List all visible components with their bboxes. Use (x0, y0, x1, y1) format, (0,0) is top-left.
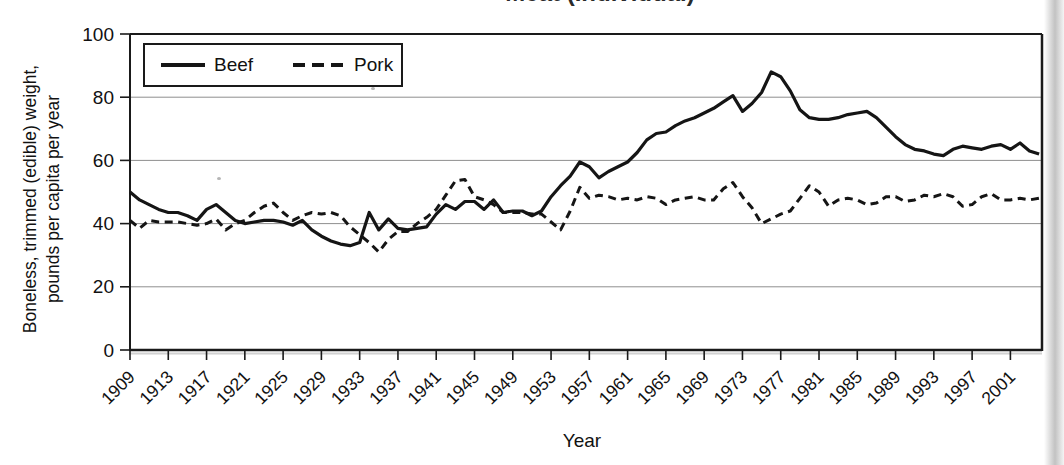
x-tick-label-1973: 1973 (710, 367, 752, 409)
x-tick-label-1909: 1909 (97, 367, 139, 409)
x-tick-label-1953: 1953 (518, 367, 560, 409)
x-tick-label-1949: 1949 (480, 367, 522, 409)
x-tick-label-1997: 1997 (939, 367, 981, 409)
x-tick-label-1913: 1913 (135, 367, 177, 409)
x-tick-label-1981: 1981 (786, 367, 828, 409)
x-tick-label-1917: 1917 (174, 367, 216, 409)
y-axis-title-line2: pounds per capita per year (43, 95, 63, 303)
y-tick-label-60: 60 (93, 150, 114, 171)
x-tick-label-1945: 1945 (442, 367, 484, 409)
x-tick-label-1961: 1961 (595, 367, 637, 409)
x-tick-label-1921: 1921 (212, 367, 254, 409)
x-tick-label-1969: 1969 (671, 367, 713, 409)
scan-speck (217, 177, 221, 180)
x-tick-label-1965: 1965 (633, 367, 675, 409)
x-tick-label-1937: 1937 (365, 367, 407, 409)
y-tick-label-0: 0 (103, 340, 114, 361)
x-tick-label-1985: 1985 (824, 367, 866, 409)
beef-line (130, 72, 1039, 246)
y-tick-label-80: 80 (93, 87, 114, 108)
beef-solid-line-sample-icon (161, 63, 205, 67)
legend-label-pork: Pork (354, 54, 393, 76)
scan-speck (371, 87, 375, 90)
x-tick-label-1993: 1993 (901, 367, 943, 409)
x-tick-label-1929: 1929 (289, 367, 331, 409)
y-tick-label-100: 100 (82, 24, 114, 45)
x-tick-label-1989: 1989 (863, 367, 905, 409)
y-axis-title-line1: Boneless, trimmed (edible) weight, (20, 65, 40, 333)
x-tick-label-1941: 1941 (403, 367, 445, 409)
x-axis-title: Year (500, 430, 664, 452)
legend-box: Beef Pork (143, 43, 403, 87)
legend-label-beef: Beef (214, 54, 253, 76)
y-tick-label-20: 20 (93, 276, 114, 297)
x-tick-label-1977: 1977 (748, 367, 790, 409)
legend-item-beef: Beef (161, 54, 253, 76)
y-axis-title: Boneless, trimmed (edible) weight, pound… (19, 29, 65, 369)
y-tick-label-40: 40 (93, 213, 114, 234)
legend-item-pork: Pork (293, 54, 393, 76)
x-tick-label-1925: 1925 (250, 367, 292, 409)
chart-page: Meat (Individual) 0204060801001909191319… (0, 0, 1064, 465)
x-tick-label-2001: 2001 (978, 367, 1020, 409)
x-tick-label-1933: 1933 (327, 367, 369, 409)
x-tick-label-1957: 1957 (556, 367, 598, 409)
pork-dashed-line-sample-icon (293, 63, 345, 67)
pork-line (130, 179, 1039, 252)
